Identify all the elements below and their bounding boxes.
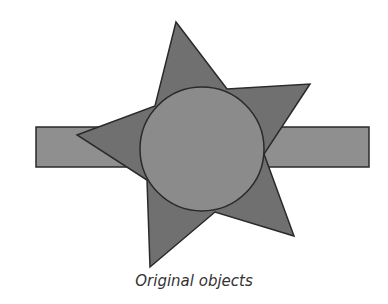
diagram <box>0 0 388 304</box>
caption: Original objects <box>0 272 388 290</box>
circle-shape <box>140 87 264 211</box>
